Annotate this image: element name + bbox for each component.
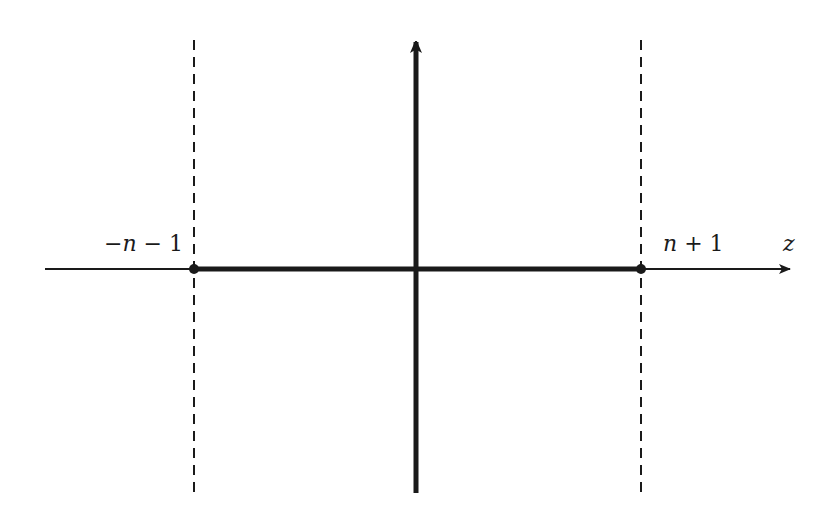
left-point-dot	[189, 264, 199, 274]
right-point-label: n + 1	[663, 231, 724, 256]
left-point-label: −n − 1	[104, 231, 183, 256]
z-axis-label: z	[782, 231, 795, 256]
right-point-dot	[636, 264, 646, 274]
complex-plane-diagram: −n − 1 n + 1 z	[0, 0, 833, 527]
